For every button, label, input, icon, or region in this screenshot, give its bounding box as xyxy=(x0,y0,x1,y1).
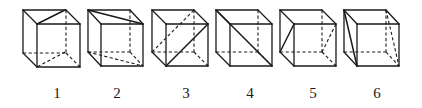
solid-diagonal xyxy=(280,24,294,52)
dashed-diagonal xyxy=(322,24,336,52)
cube-6 xyxy=(344,10,399,66)
bottom-right-depth-hidden-edge xyxy=(322,52,336,66)
top-right-depth-edge xyxy=(258,10,272,24)
labels-layer: 1 2 3 4 5 6 xyxy=(53,85,381,101)
cube-2 xyxy=(88,10,143,66)
top-right-depth-edge xyxy=(194,10,208,24)
solid-diagonal xyxy=(37,10,65,24)
solid-diagonal xyxy=(166,24,208,66)
cube-label-6: 6 xyxy=(373,85,381,101)
dashed-diagonal xyxy=(386,10,399,66)
solid-diagonal xyxy=(216,10,230,24)
solid-diagonal xyxy=(230,24,272,66)
bottom-right-depth-hidden-edge xyxy=(130,52,143,66)
cube-3 xyxy=(152,10,208,66)
bottom-left-depth-edge xyxy=(216,52,230,66)
bottom-left-depth-edge xyxy=(280,52,294,66)
top-left-depth-edge xyxy=(23,10,37,24)
cube-4 xyxy=(216,10,272,66)
bottom-left-depth-edge xyxy=(152,52,166,66)
top-right-depth-edge xyxy=(66,10,80,24)
cube-label-3: 3 xyxy=(182,85,190,101)
bottom-right-depth-hidden-edge xyxy=(194,52,208,66)
dashed-diagonal xyxy=(37,52,65,67)
top-left-depth-edge xyxy=(280,10,294,24)
bottom-right-depth-hidden-edge xyxy=(66,53,80,67)
dashed-diagonal xyxy=(88,52,143,66)
cube-label-5: 5 xyxy=(309,85,317,101)
top-left-depth-edge xyxy=(152,10,166,24)
bottom-right-depth-hidden-edge xyxy=(386,52,399,66)
cubes-layer xyxy=(23,10,399,67)
cube-label-4: 4 xyxy=(246,85,254,101)
top-right-depth-edge xyxy=(322,10,336,24)
cube-5 xyxy=(280,10,336,66)
cube-diagrams-figure: 1 2 3 4 5 6 xyxy=(0,0,422,108)
cube-1 xyxy=(23,10,80,67)
solid-diagonal xyxy=(344,10,357,66)
cube-label-1: 1 xyxy=(53,85,61,101)
cube-label-2: 2 xyxy=(113,85,121,101)
solid-diagonal xyxy=(88,10,143,24)
bottom-left-depth-edge xyxy=(23,53,37,67)
